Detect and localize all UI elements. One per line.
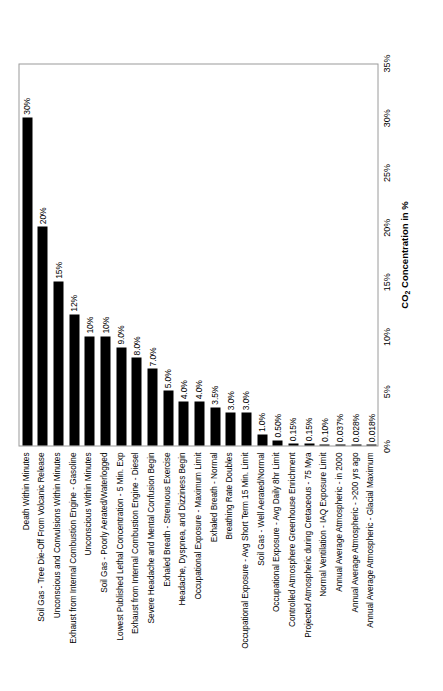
- bar-value-label: 0.50%: [273, 413, 282, 437]
- bar-row: 0.15%: [301, 64, 317, 445]
- bar: [366, 444, 376, 445]
- bar-value-label: 7.0%: [148, 347, 157, 366]
- category-label: Annual Average Atmospheric - >200 yrs ag…: [350, 452, 359, 612]
- category-label: Soil Gas - Tree Die-Off From Volcanic Re…: [36, 452, 45, 621]
- bar-value-label: 12%: [69, 294, 78, 311]
- category-label: Exhaled Breath - Normal: [209, 452, 218, 542]
- bar: [194, 401, 204, 445]
- bar-row: 1.0%: [254, 64, 270, 445]
- bar-value-label: 10%: [85, 316, 94, 333]
- bar-row: 30%: [19, 64, 35, 445]
- category-label: Annual Average Atmospheric - Glacial Max…: [365, 452, 374, 627]
- x-tick-label: 30%: [381, 109, 392, 127]
- category-label: Unconscious Within Minutes: [83, 452, 92, 555]
- plot-area: 30%20%15%12%10%10%9.0%8.0%7.0%5.0%4.0%4.…: [18, 63, 378, 446]
- value-axis-ticks: 0%5%10%15%20%25%30%35%: [381, 63, 397, 446]
- bar-row: 5.0%: [160, 64, 176, 445]
- bar: [335, 444, 345, 445]
- x-tick-label: 35%: [381, 54, 392, 72]
- bar: [69, 314, 79, 445]
- bar-value-label: 9.0%: [116, 325, 125, 344]
- bar-value-label: 4.0%: [179, 380, 188, 399]
- value-axis-title: CO2 Concentration in %: [398, 63, 411, 446]
- category-label: Exhaled Breath - Strenuous Exercise: [162, 452, 171, 586]
- bar: [100, 336, 110, 445]
- x-tick-label: 20%: [381, 218, 392, 236]
- category-label: Exhaust from Internal Combustion Engine …: [68, 452, 77, 643]
- bar: [288, 443, 298, 445]
- bar-value-label: 0.15%: [288, 417, 297, 441]
- bar-value-label: 3.0%: [241, 391, 250, 410]
- bar: [257, 434, 267, 445]
- bar: [84, 336, 94, 445]
- bar-row: 4.0%: [191, 64, 207, 445]
- bar: [241, 412, 251, 445]
- category-label: Headache, Dyspnea, and Dizziness Begin: [177, 452, 186, 605]
- category-axis-labels: Death Within MinutesSoil Gas - Tree Die-…: [18, 449, 378, 691]
- bar-value-label: 4.0%: [194, 380, 203, 399]
- bar-row: 12%: [66, 64, 82, 445]
- bar: [131, 357, 141, 445]
- bar: [37, 226, 47, 445]
- bar: [22, 117, 32, 445]
- bar-value-label: 5.0%: [163, 369, 172, 388]
- bar-value-label: 3.0%: [226, 391, 235, 410]
- category-label: Lowest Published Lethal Concentration - …: [115, 452, 124, 640]
- x-tick-label: 25%: [381, 163, 392, 181]
- bar-value-label: 30%: [22, 98, 31, 115]
- x-tick-label: 10%: [381, 328, 392, 346]
- bar-row: 20%: [35, 64, 51, 445]
- bar: [178, 401, 188, 445]
- bar-row: 0.037%: [332, 64, 348, 445]
- bar-row: 0.10%: [316, 64, 332, 445]
- bar: [147, 368, 157, 445]
- bar-row: 15%: [50, 64, 66, 445]
- bar-row: 10%: [97, 64, 113, 445]
- bar-value-label: 0.018%: [367, 413, 376, 441]
- bar-row: 3.5%: [207, 64, 223, 445]
- rotated-figure-wrapper: Death Within MinutesSoil Gas - Tree Die-…: [0, 0, 443, 691]
- bar-row: 3.0%: [238, 64, 254, 445]
- category-label: Severe Headache and Mental Confusion Beg…: [146, 452, 155, 623]
- bar-row: 0.018%: [363, 64, 379, 445]
- bar-value-label: 0.10%: [320, 418, 329, 442]
- category-label: Occupational Exposure - Maximum Limit: [193, 452, 202, 599]
- category-label: Projected Atmospheric during Cretaceous …: [303, 452, 312, 637]
- bar: [53, 281, 63, 445]
- bar-value-label: 0.15%: [304, 417, 313, 441]
- bar: [304, 443, 314, 445]
- category-label: Death Within Minutes: [21, 452, 30, 530]
- bar: [163, 390, 173, 445]
- category-label: Breathing Rate Doubles: [224, 452, 233, 539]
- bar: [319, 444, 329, 445]
- bar: [351, 444, 361, 445]
- bar-row: 0.50%: [269, 64, 285, 445]
- category-label: Normal Ventilation - IAQ Exposure Limit: [318, 452, 327, 596]
- category-label: Soil Gas - Poorly Aerated/Waterlogged: [99, 452, 108, 592]
- category-label: Occupational Exposure - Avg Short Term 1…: [240, 452, 249, 648]
- bar-row: 8.0%: [129, 64, 145, 445]
- bar-row: 9.0%: [113, 64, 129, 445]
- bar-value-label: 20%: [38, 207, 47, 224]
- bar-row: 4.0%: [176, 64, 192, 445]
- bar-value-label: 0.037%: [335, 413, 344, 441]
- x-tick-label: 0%: [381, 439, 392, 452]
- chart-figure: Death Within MinutesSoil Gas - Tree Die-…: [0, 0, 443, 691]
- bar: [225, 412, 235, 445]
- category-label: Annual Average Atmospheric - in 2000: [334, 452, 343, 591]
- bar-value-label: 10%: [101, 316, 110, 333]
- category-label: Unconscious and Convulsions Within Minut…: [52, 452, 61, 618]
- bar-row: 10%: [82, 64, 98, 445]
- category-label: Controlled Atmosphere Greenhouse Enrichm…: [287, 452, 296, 627]
- category-label: Occupational Exposure - Avg Daily 8hr Li…: [271, 452, 280, 612]
- bar: [210, 407, 220, 445]
- category-label: Exhaust from Internal Combustion Engine …: [130, 452, 139, 634]
- bar-row: 3.0%: [222, 64, 238, 445]
- bar-value-label: 3.5%: [210, 385, 219, 404]
- bar-value-label: 8.0%: [132, 336, 141, 355]
- bar-row: 0.15%: [285, 64, 301, 445]
- category-label: Soil Gas - Well Aerated/Normal: [256, 452, 265, 565]
- bar-value-label: 0.028%: [351, 413, 360, 441]
- x-tick-label: 15%: [381, 273, 392, 291]
- bar: [272, 440, 282, 445]
